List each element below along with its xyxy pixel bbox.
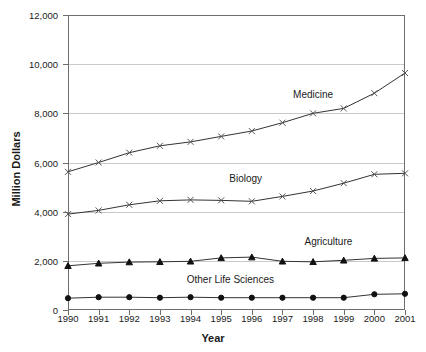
series-agriculture <box>65 254 408 269</box>
data-point <box>96 160 102 166</box>
series-line <box>68 73 405 172</box>
x-tick-mark <box>129 310 130 315</box>
y-tick-mark <box>63 261 68 262</box>
y-tick-mark <box>63 113 68 114</box>
data-point <box>341 180 347 186</box>
data-point <box>65 296 70 301</box>
y-tick-mark <box>63 163 68 164</box>
data-point <box>65 169 71 175</box>
series-layer <box>0 0 426 352</box>
data-point <box>402 70 408 76</box>
data-point <box>279 120 285 126</box>
x-tick-mark <box>191 310 192 315</box>
series-annotation: Other Life Sciences <box>187 274 274 285</box>
series-annotation: Biology <box>229 173 262 184</box>
x-axis-title: Year <box>0 332 426 344</box>
data-point <box>371 90 377 96</box>
data-point <box>157 295 162 300</box>
y-tick-mark <box>63 64 68 65</box>
data-point <box>188 295 193 300</box>
data-point <box>341 295 346 300</box>
x-tick-mark <box>405 310 406 315</box>
x-tick-mark <box>160 310 161 315</box>
data-point <box>372 292 377 297</box>
y-tick-mark <box>63 15 68 16</box>
series-other-life-sciences <box>65 291 407 301</box>
x-axis-tick-labels: 1990199119921993199419951996199719981999… <box>0 313 426 329</box>
y-tick-mark <box>63 212 68 213</box>
x-tick-mark <box>68 310 69 315</box>
series-annotation: Agriculture <box>305 236 353 247</box>
series-line <box>68 257 405 266</box>
data-point <box>402 291 407 296</box>
data-point <box>249 295 254 300</box>
x-tick-mark <box>252 310 253 315</box>
data-point <box>96 295 101 300</box>
y-axis-title: Million Dollars <box>10 109 22 229</box>
x-tick-mark <box>313 310 314 315</box>
series-line <box>68 294 405 298</box>
data-point <box>310 295 315 300</box>
x-tick-mark <box>282 310 283 315</box>
data-point <box>219 295 224 300</box>
data-point <box>280 295 285 300</box>
x-tick-mark <box>344 310 345 315</box>
x-tick-mark <box>374 310 375 315</box>
x-tick-mark <box>221 310 222 315</box>
x-tick-mark <box>99 310 100 315</box>
series-annotation: Medicine <box>293 89 333 100</box>
series-medicine <box>65 70 408 175</box>
line-chart: 02,0004,0006,0008,00010,00012,000 199019… <box>0 0 426 352</box>
data-point <box>127 295 132 300</box>
